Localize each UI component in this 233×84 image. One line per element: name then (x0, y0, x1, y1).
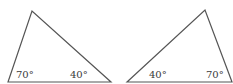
right-triangle-angle-left: 40° (149, 69, 167, 80)
right-triangle-angle-right: 70° (206, 69, 224, 80)
left-triangle-angle-right: 40° (70, 69, 88, 80)
left-triangle-angle-left: 70° (16, 69, 34, 80)
diagram-canvas: 70° 40° 40° 70° (0, 0, 233, 84)
left-triangle: 70° 40° (8, 11, 111, 82)
right-triangle: 40° 70° (127, 10, 232, 82)
